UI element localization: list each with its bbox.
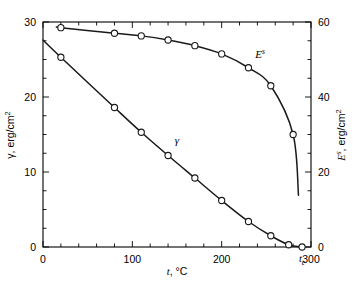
x-axis-title: t, °C (167, 265, 188, 277)
y-tick-label-right: 40 (318, 91, 330, 103)
y-tick-label-right: 60 (318, 16, 330, 28)
svg-text:Es: Es (254, 47, 265, 60)
y-axis-right-ticks (305, 22, 311, 247)
gamma-marker (299, 244, 305, 250)
es-marker (290, 131, 296, 137)
gamma-curve-path (43, 40, 302, 247)
es-marker (165, 37, 171, 43)
es-label-group: Es (254, 47, 265, 60)
y-axis-left-ticks (43, 22, 49, 247)
y-tick-label-left: 30 (24, 16, 36, 28)
es-marker (192, 43, 198, 49)
gamma-marker (138, 129, 144, 135)
y-axis-right-title: Es, erg/cm2 (334, 109, 347, 161)
gamma-marker (268, 233, 274, 239)
gamma-marker (111, 104, 117, 110)
y-tick-label-right: 20 (318, 166, 330, 178)
svg-text:Es, erg/cm2: Es, erg/cm2 (334, 109, 347, 161)
svg-text:t, °C: t, °C (167, 265, 188, 277)
y-axis-right-title-rest: , erg/cm (335, 113, 347, 151)
y-tick-label-right: 0 (318, 241, 324, 253)
y-axis-left-tick-labels: 0102030 (24, 16, 36, 253)
es-label-sup: s (262, 47, 265, 56)
y-axis-left-title-text: γ, erg/cm (4, 115, 16, 158)
x-axis-title-rest: , °C (170, 265, 188, 277)
x-tick-label: 200 (213, 253, 231, 265)
y-axis-left-title: γ, erg/cm2 (3, 111, 16, 158)
x-axis-top-ticks (43, 22, 311, 28)
es-marker (245, 65, 251, 71)
y-axis-right-tick-labels: 0204060 (318, 16, 330, 253)
x-tick-label: 0 (40, 253, 46, 265)
x-axis-tick-labels: 0100200300 (40, 253, 320, 265)
x-tick-label: 100 (124, 253, 142, 265)
es-marker (268, 83, 274, 89)
gamma-label: γ (175, 134, 180, 146)
es-marker (138, 33, 144, 39)
es-marker (58, 25, 64, 31)
gamma-marker (165, 152, 171, 158)
chart-canvas: 0100200300 0102030 0204060 t, °C γ, erg/… (0, 0, 358, 286)
gamma-marker (245, 218, 251, 224)
y-tick-label-left: 0 (30, 241, 36, 253)
svg-text:γ, erg/cm2: γ, erg/cm2 (3, 111, 16, 158)
figure-container: 0100200300 0102030 0204060 t, °C γ, erg/… (0, 0, 358, 286)
y-tick-label-left: 20 (24, 91, 36, 103)
gamma-marker (219, 197, 225, 203)
x-axis-ticks (43, 241, 311, 247)
y-axis-left-title-sup: 2 (3, 111, 12, 115)
es-marker (219, 51, 225, 57)
gamma-marker (286, 242, 292, 248)
gamma-marker (58, 54, 64, 60)
es-marker (111, 30, 117, 36)
y-axis-right-title-sup-2: 2 (334, 109, 343, 113)
gamma-label-group: γ (175, 134, 180, 146)
gamma-marker (192, 175, 198, 181)
y-tick-label-left: 10 (24, 166, 36, 178)
